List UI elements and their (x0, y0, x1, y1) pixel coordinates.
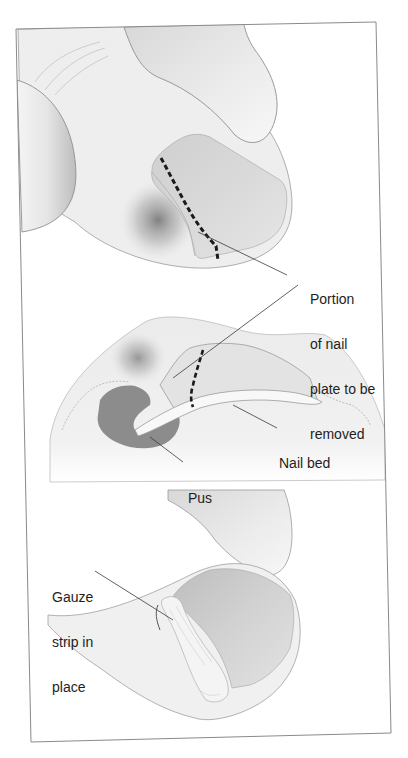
inflammation-shading-middle (110, 332, 166, 384)
label-nail-bed-text: Nail bed (279, 456, 330, 471)
label-pus: Pus (188, 461, 212, 521)
illustration-stage: Portion of nail plate to be removed Nail… (0, 0, 408, 758)
label-pus-text: Pus (188, 491, 212, 506)
label-nail-bed: Nail bed (279, 426, 330, 486)
label-portion-line-2: of nail (310, 337, 375, 352)
label-gauze-line-3: place (52, 680, 93, 695)
label-portion-line-3: plate to be (310, 382, 375, 397)
label-gauze-strip: Gauze strip in place (52, 560, 93, 710)
label-gauze-line-2: strip in (52, 635, 93, 650)
label-portion-line-1: Portion (310, 292, 375, 307)
label-gauze-line-1: Gauze (52, 590, 93, 605)
